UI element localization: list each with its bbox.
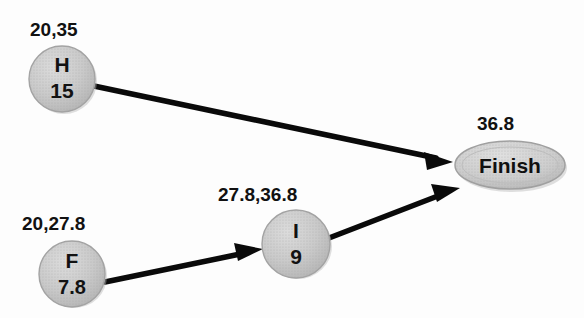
node-h-name: H	[54, 53, 69, 76]
node-h-duration: 15	[50, 79, 74, 102]
node-i-time-label: 27.8,36.8	[218, 184, 297, 205]
edge-f-to-i	[105, 243, 263, 282]
edge-f-to-i-arrowhead	[234, 243, 263, 261]
edge-h-to-finish-arrowhead	[424, 152, 453, 170]
edge-f-to-i-line	[105, 253, 245, 282]
edge-h-to-finish	[94, 86, 453, 170]
edge-i-to-finish	[329, 184, 460, 238]
node-i[interactable]: I 9	[262, 210, 332, 279]
node-finish-time-label: 36.8	[477, 113, 514, 134]
node-h[interactable]: H 15	[29, 46, 97, 114]
diagram-svg: H 15 20,35 F 7.8 20,27.8 I 9 27.8,36.8	[0, 0, 584, 318]
node-h-time-label: 20,35	[30, 19, 78, 40]
edge-i-to-finish-line	[329, 194, 443, 238]
node-f-duration: 7.8	[58, 276, 86, 298]
node-finish[interactable]: Finish	[455, 141, 567, 192]
node-f[interactable]: F 7.8	[39, 241, 107, 308]
node-f-time-label: 20,27.8	[22, 213, 85, 234]
node-i-duration: 9	[290, 245, 302, 268]
node-i-name: I	[293, 219, 299, 242]
network-diagram-canvas: H 15 20,35 F 7.8 20,27.8 I 9 27.8,36.8	[0, 0, 584, 318]
node-finish-name: Finish	[479, 154, 541, 177]
edge-h-to-finish-line	[94, 86, 436, 158]
node-f-name: F	[66, 249, 79, 272]
